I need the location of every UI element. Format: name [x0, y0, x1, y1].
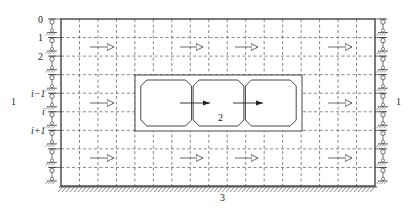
- roller-support-icon: [375, 130, 388, 147]
- ground-hatch: [178, 188, 182, 193]
- ground-hatch: [266, 188, 270, 193]
- roller-support-icon: [46, 93, 62, 110]
- ground-hatch: [294, 188, 298, 193]
- roller-support-icon: [46, 149, 62, 166]
- ground-hatch: [274, 188, 278, 193]
- ground-hatch: [342, 188, 346, 193]
- ground-hatch: [146, 188, 150, 193]
- ground-hatch: [174, 188, 178, 193]
- ground-hatch: [278, 188, 282, 193]
- ground-hatch: [82, 188, 86, 193]
- ground-hatch: [126, 188, 130, 193]
- ground-hatch: [286, 188, 290, 193]
- ground-hatch: [210, 188, 214, 193]
- ground-hatch: [186, 188, 190, 193]
- ground-hatch: [166, 188, 170, 193]
- roller-support-icon: [46, 38, 62, 55]
- ground-hatch: [314, 188, 318, 193]
- ground-hatch: [162, 188, 166, 193]
- ground-hatch: [370, 188, 374, 193]
- roller-support-icon: [375, 93, 388, 110]
- ground-hatch: [130, 188, 134, 193]
- ground-hatch: [122, 188, 126, 193]
- ground-hatch: [270, 188, 274, 193]
- roller-support-icon: [375, 75, 388, 92]
- ground-hatch: [114, 188, 118, 193]
- ground-hatch: [190, 188, 194, 193]
- ground-hatch: [306, 188, 310, 193]
- ground-hatch: [226, 188, 230, 193]
- ground-hatch: [74, 188, 78, 193]
- row-label-i-minus-1: i−1: [31, 88, 46, 99]
- flow-domain-diagram: 0 1 2 i−1 i i+1 1 1 2 3: [0, 0, 409, 215]
- ground-hatch: [118, 188, 122, 193]
- ground-hatch: [246, 188, 250, 193]
- left-roller-supports: [46, 19, 62, 184]
- ground-hatch: [258, 188, 262, 193]
- ground-hatch: [94, 188, 98, 193]
- bottom-fixed-boundary: [58, 187, 377, 192]
- ground-hatch: [106, 188, 110, 193]
- ground-hatch: [334, 188, 338, 193]
- left-boundary-label: 1: [11, 96, 16, 107]
- ground-hatch: [354, 188, 358, 193]
- ground-hatch: [262, 188, 266, 193]
- roller-support-icon: [375, 38, 388, 55]
- ground-hatch: [70, 188, 74, 193]
- roller-support-icon: [375, 149, 388, 166]
- ground-hatch: [142, 188, 146, 193]
- roller-support-icon: [46, 75, 62, 92]
- ground-hatch: [350, 188, 354, 193]
- ground-hatch: [282, 188, 286, 193]
- ground-hatch: [310, 188, 314, 193]
- ground-hatch: [154, 188, 158, 193]
- ground-hatch: [290, 188, 294, 193]
- ground-hatch: [302, 188, 306, 193]
- ground-hatch: [322, 188, 326, 193]
- ground-hatch: [182, 188, 186, 193]
- ground-hatch: [110, 188, 114, 193]
- roller-support-icon: [46, 112, 62, 128]
- ground-hatch: [66, 188, 70, 193]
- roller-support-icon: [375, 19, 388, 36]
- right-roller-supports: [375, 19, 388, 184]
- roller-support-icon: [46, 167, 62, 184]
- roller-support-icon: [375, 56, 388, 73]
- roller-support-icon: [375, 167, 388, 184]
- row-label-2: 2: [38, 51, 43, 62]
- ground-hatch: [250, 188, 254, 193]
- row-label-i: i: [42, 106, 45, 117]
- bottom-boundary-label: 3: [220, 192, 225, 203]
- ground-hatch: [238, 188, 242, 193]
- ground-hatch: [138, 188, 142, 193]
- ground-hatch: [242, 188, 246, 193]
- roller-support-icon: [46, 56, 62, 73]
- ground-hatch: [298, 188, 302, 193]
- structure-label: 2: [218, 112, 223, 123]
- row-label-1: 1: [38, 32, 43, 43]
- ground-hatch: [234, 188, 238, 193]
- ground-hatch: [194, 188, 198, 193]
- ground-hatch: [214, 188, 218, 193]
- row-label-i-plus-1: i+1: [31, 125, 46, 136]
- ground-hatch: [230, 188, 234, 193]
- ground-hatch: [198, 188, 202, 193]
- ground-hatch: [86, 188, 90, 193]
- ground-hatch: [330, 188, 334, 193]
- ground-hatch: [358, 188, 362, 193]
- ground-hatch: [78, 188, 82, 193]
- roller-support-icon: [375, 112, 388, 128]
- ground-hatch: [338, 188, 342, 193]
- roller-support-icon: [46, 130, 62, 147]
- ground-hatch: [150, 188, 154, 193]
- ground-hatch: [134, 188, 138, 193]
- ground-hatch: [98, 188, 102, 193]
- ground-hatch: [58, 188, 62, 193]
- ground-hatch: [362, 188, 366, 193]
- right-boundary-label: 1: [396, 96, 401, 107]
- ground-hatch: [102, 188, 106, 193]
- ground-hatch: [254, 188, 258, 193]
- ground-hatch: [170, 188, 174, 193]
- ground-hatch: [326, 188, 330, 193]
- roller-support-icon: [46, 19, 62, 36]
